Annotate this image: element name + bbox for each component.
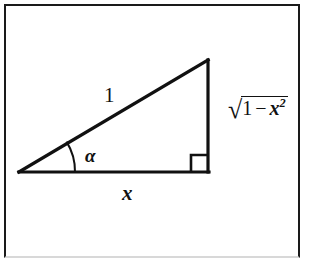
radicand-minus-operator: − [252,97,269,119]
radicand-exponent: 2 [280,96,286,110]
radicand-variable: x [270,97,280,119]
vertical-leg-label: √1−x2 [228,96,288,123]
triangle-outline [19,60,209,172]
base-label: x [122,183,133,204]
radicand-one: 1 [242,97,252,119]
radical-expression: √1−x2 [228,96,288,123]
hypotenuse-label: 1 [104,85,115,106]
triangle-hypotenuse-line [19,60,208,172]
angle-arc [67,142,76,172]
radicand: 1−x2 [241,96,287,119]
triangle-diagram [0,0,310,262]
angle-label: α [85,146,96,165]
radical-sign-icon: √ [228,97,242,123]
right-angle-marker [191,155,208,172]
